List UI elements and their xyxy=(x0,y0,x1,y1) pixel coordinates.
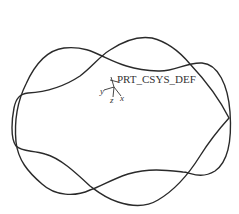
csys-y-label: y xyxy=(99,86,104,96)
csys-leader-line xyxy=(111,77,114,87)
csys-label: PRT_CSYS_DEF xyxy=(117,73,196,85)
csys-x-label: x xyxy=(119,93,124,103)
csys-y-axis xyxy=(104,87,114,90)
spline-curve-1[interactable] xyxy=(15,48,230,195)
csys-z-label: z xyxy=(109,95,114,105)
model-viewport[interactable]: PRT_CSYS_DEF y z x xyxy=(0,0,239,214)
